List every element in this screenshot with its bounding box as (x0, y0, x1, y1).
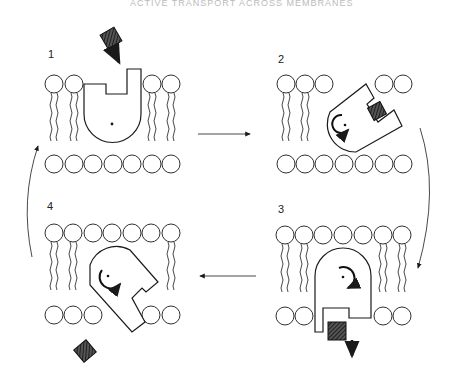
carrier-protein (315, 248, 371, 332)
panel-3: 3 (276, 203, 411, 356)
arrow-in-icon (113, 50, 119, 62)
panel-1-number: 1 (48, 48, 54, 60)
panel-2: 2 (277, 53, 412, 173)
solute (100, 27, 122, 49)
carrier-protein (84, 69, 141, 143)
solute (328, 322, 346, 340)
carrier-protein (327, 84, 402, 152)
arrow-2-to-3-icon (418, 128, 430, 268)
panel-3-number: 3 (278, 203, 284, 215)
arrow-4-to-1-icon (27, 146, 38, 257)
header-text: ACTIVE TRANSPORT ACROSS MEMBRANES (130, 0, 354, 8)
solute (74, 340, 97, 363)
panel-1: 1 (45, 27, 180, 173)
panel-4-number: 4 (47, 200, 53, 212)
panel-2-number: 2 (278, 53, 284, 65)
panel-4: 4 (45, 200, 180, 362)
